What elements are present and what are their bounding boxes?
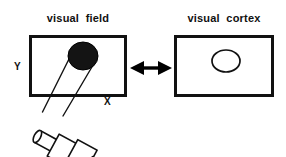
light-projector bbox=[27, 120, 129, 157]
visual-cortex-box bbox=[175, 36, 272, 95]
figure-artwork bbox=[0, 0, 286, 157]
panel-visual-field bbox=[30, 36, 125, 116]
visual-field-stimulus-ellipse bbox=[68, 42, 98, 70]
arrow-head-right bbox=[158, 61, 172, 75]
arrow-head-left bbox=[130, 61, 144, 75]
double-headed-arrow bbox=[130, 61, 172, 75]
panel-visual-cortex bbox=[175, 36, 272, 95]
figure-root: visual field visual cortex Y X bbox=[0, 0, 286, 157]
